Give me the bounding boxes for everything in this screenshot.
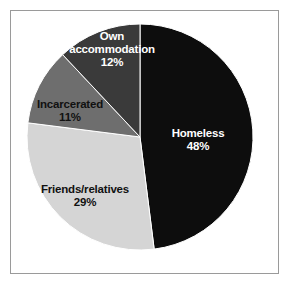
pie-slice-name-text: Incarcerated — [37, 98, 103, 110]
pie-chart-svg: Homeless48%Friends/relatives29%Incarcera… — [0, 0, 290, 285]
pie-slice-name-text: Own — [100, 30, 124, 42]
pie-slice-value-text: 29% — [74, 196, 96, 208]
pie-slice-name-text: Friends/relatives — [41, 183, 129, 195]
pie-slice-value-text: 11% — [59, 111, 81, 123]
pie-chart: Homeless48%Friends/relatives29%Incarcera… — [0, 0, 290, 285]
pie-slice-name-text: Homeless — [172, 127, 225, 139]
pie-slice-value-text: 48% — [187, 140, 209, 152]
pie-slice-value-text: 12% — [101, 56, 123, 68]
pie-slice-name-text: accommodation — [69, 43, 155, 55]
chart-page: Homeless48%Friends/relatives29%Incarcera… — [0, 0, 290, 285]
